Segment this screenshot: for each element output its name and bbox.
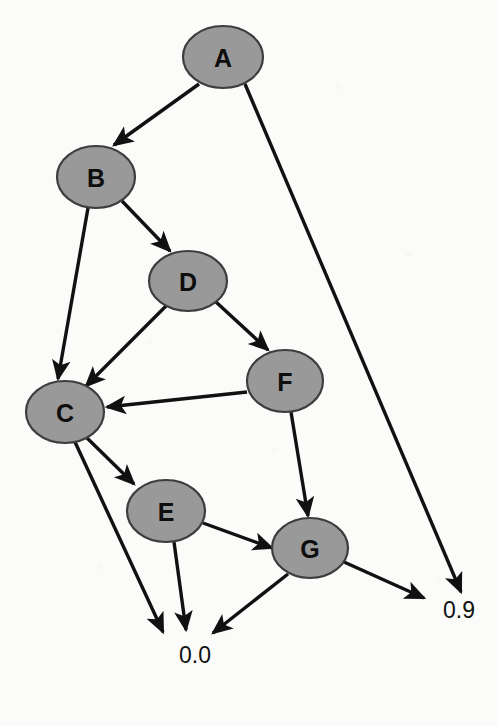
graph-node-c[interactable]: C <box>26 381 104 443</box>
node-label-a: A <box>214 44 232 72</box>
graph-node-g[interactable]: G <box>272 518 348 578</box>
edge-f-to-c <box>107 392 247 407</box>
edge-d-to-c <box>86 306 166 386</box>
node-label-e: E <box>158 498 175 526</box>
graph-node-f[interactable]: F <box>247 350 323 412</box>
edge-f-to-g <box>291 412 308 516</box>
graph-canvas: ABDFCEG 0.00.9 <box>0 0 498 726</box>
edge-a-to-b <box>114 84 199 145</box>
node-label-b: B <box>87 164 105 192</box>
edge-g-to-zero-nine <box>344 562 424 598</box>
graph-node-a[interactable]: A <box>183 26 263 88</box>
edge-e-to-zero-zero <box>174 542 186 630</box>
edge-d-to-f <box>216 302 268 350</box>
edge-b-to-d <box>122 201 170 251</box>
edge-e-to-g <box>203 523 272 548</box>
graph-node-e[interactable]: E <box>127 480 205 542</box>
terminal-label-zero-zero: 0.0 <box>179 642 211 668</box>
node-label-f: F <box>277 368 292 396</box>
graph-node-d[interactable]: D <box>149 251 227 311</box>
edge-c-to-e <box>86 437 134 484</box>
edge-g-to-zero-zero <box>213 574 288 633</box>
graph-node-b[interactable]: B <box>57 146 135 208</box>
node-label-d: D <box>179 268 197 296</box>
edge-b-to-c <box>58 208 88 379</box>
node-label-c: C <box>56 399 74 427</box>
nodes-layer: ABDFCEG <box>26 26 348 578</box>
graph-svg: ABDFCEG 0.00.9 <box>0 0 498 726</box>
node-label-g: G <box>300 535 319 563</box>
terminals-layer: 0.00.9 <box>179 597 475 668</box>
terminal-label-zero-nine: 0.9 <box>443 597 475 623</box>
edge-a-to-zero-nine <box>245 84 461 592</box>
